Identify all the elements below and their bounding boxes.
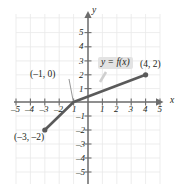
point-label-neg3-neg2: (–3, –2)	[14, 133, 44, 143]
y-tick-label-neg2: –2	[76, 126, 85, 135]
x-axis-label: x	[170, 96, 174, 106]
x-tick-label-1: 1	[100, 105, 105, 114]
y-axis-label: y	[92, 6, 96, 16]
y-tick-label-5: 5	[79, 28, 84, 37]
y-tick-label-4: 4	[79, 42, 84, 51]
y-tick-label-neg4: –4	[76, 154, 85, 163]
point-label-neg1-0: (–1, 0)	[30, 70, 55, 80]
y-tick-label-neg5: –5	[76, 168, 85, 177]
graph-figure: y x –5 –4 –3 –2 1 1 2 3 4 5 5 4 3 2 1 –1…	[0, 0, 181, 190]
x-tick-label-neg5: –5	[11, 105, 20, 114]
leader-line-neg1-0	[69, 79, 73, 101]
point-label-4-2: (4, 2)	[140, 60, 161, 70]
callout-tail	[100, 72, 106, 82]
y-tick-label-3: 3	[79, 57, 84, 66]
x-tick-label-3: 3	[129, 105, 134, 114]
x-tick-label-neg3: –3	[40, 105, 49, 114]
function-label-callout: y = f(x)	[98, 57, 133, 69]
x-tick-label-5: 5	[158, 105, 163, 114]
x-tick-label-4: 4	[143, 105, 148, 114]
y-tick-label-neg1: –1	[76, 112, 85, 121]
coordinate-plane-svg	[0, 0, 181, 190]
y-axis-arrow	[84, 11, 91, 18]
x-tick-label-neg4: –4	[25, 105, 34, 114]
y-tick-label-2: 2	[79, 71, 84, 80]
x-tick-label-2: 2	[114, 105, 119, 114]
x-tick-label-neg2: –2	[54, 105, 63, 114]
y-tick-label-neg3: –3	[76, 140, 85, 149]
data-point-4-2	[143, 72, 148, 77]
y-tick-label-1: 1	[79, 85, 84, 94]
